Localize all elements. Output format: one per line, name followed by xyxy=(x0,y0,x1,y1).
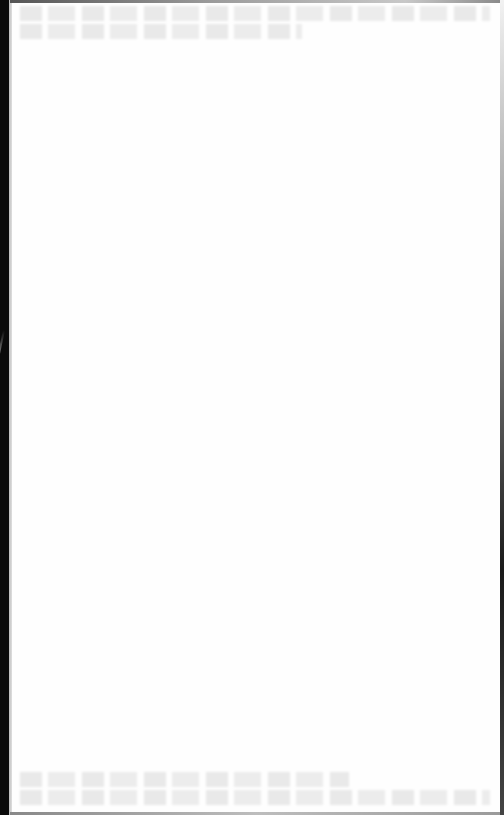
bleed-through-top xyxy=(20,6,490,42)
bleed-through-line xyxy=(20,6,490,21)
blank-page xyxy=(12,2,500,813)
bleed-through-bottom xyxy=(20,772,490,808)
scanned-page xyxy=(0,0,504,815)
binding-shadow xyxy=(0,0,9,815)
bleed-through-line xyxy=(20,772,349,787)
top-page-edge xyxy=(10,0,504,3)
right-page-edge xyxy=(500,0,504,815)
bleed-through-line xyxy=(20,790,490,805)
bleed-through-line xyxy=(20,24,302,39)
